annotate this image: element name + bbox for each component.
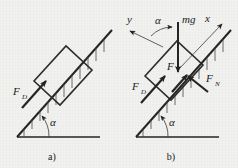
panel-b: y x mg α F D F F N α b) — [126, 12, 231, 163]
panel-b-force-fd-sublabel: D — [140, 88, 146, 96]
panel-b-force-fd-label: F — [131, 80, 139, 92]
panel-b-axes-angle-arc — [151, 27, 172, 36]
panel-a-angle-label: α — [50, 116, 56, 128]
panel-b-axis-y-label: y — [126, 13, 132, 25]
panel-b-axes-angle-label: α — [155, 14, 161, 26]
panel-a-force-fd-sublabel: D — [21, 93, 27, 101]
panel-a: F D α a) — [12, 30, 112, 163]
panel-a-angle-arc — [42, 116, 49, 137]
panel-b-caption: b) — [167, 151, 175, 163]
panel-b-angle-label: α — [169, 116, 175, 128]
panel-a-caption: a) — [48, 151, 56, 163]
panel-b-axis-y-arrow — [130, 31, 163, 47]
panel-b-angle-arc — [161, 116, 168, 137]
panel-b-force-friction-label: F — [166, 60, 174, 72]
panel-a-incline-line — [17, 30, 112, 137]
panel-b-force-normal-label: F — [205, 72, 213, 84]
panel-b-force-normal-sublabel: N — [214, 80, 220, 88]
physics-figure: F D α a) — [0, 0, 238, 168]
panel-a-block — [34, 46, 92, 105]
panel-b-axis-x-label: x — [204, 12, 210, 24]
panel-b-weight-label: mg — [182, 13, 196, 25]
panel-a-force-fd-label: F — [12, 85, 20, 97]
figure-root: F D α a) — [0, 0, 238, 168]
